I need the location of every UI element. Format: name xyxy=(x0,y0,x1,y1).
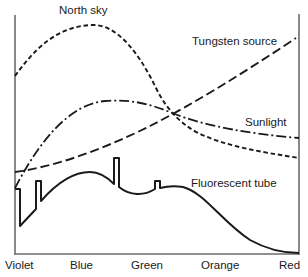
spectral-distribution-chart: North sky Tungsten source Sunlight Fluor… xyxy=(0,0,308,277)
x-tick-orange: Orange xyxy=(201,259,239,271)
x-tick-green: Green xyxy=(131,259,163,271)
label-tungsten-source: Tungsten source xyxy=(192,35,277,47)
x-tick-violet: Violet xyxy=(5,259,34,271)
x-tick-blue: Blue xyxy=(70,259,93,271)
fluorescent-curve xyxy=(15,158,299,253)
sunlight-curve xyxy=(15,101,299,188)
tungsten-curve xyxy=(15,38,296,172)
chart-svg: North sky Tungsten source Sunlight Fluor… xyxy=(0,0,308,277)
label-north-sky: North sky xyxy=(59,4,108,16)
label-sunlight: Sunlight xyxy=(245,116,287,128)
label-fluorescent-tube: Fluorescent tube xyxy=(191,177,277,189)
x-tick-red: Red xyxy=(279,259,300,271)
